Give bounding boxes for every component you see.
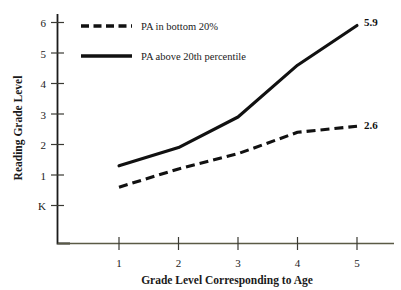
legend-label-pa-in-bottom-20pct: PA in bottom 20% — [141, 21, 218, 32]
x-axis-title: Grade Level Corresponding to Age — [141, 274, 313, 287]
y-tick-label: 1 — [41, 170, 47, 182]
y-tick-label: 5 — [41, 48, 47, 60]
x-tick-label: 4 — [295, 257, 301, 269]
x-tick-label: 1 — [116, 257, 122, 269]
x-tick-label: 2 — [176, 257, 182, 269]
legend-label-pa-above-20th-percentile: PA above 20th percentile — [141, 51, 246, 62]
x-tick-label: 3 — [235, 257, 241, 269]
series-line-pa-above-20th-percentile — [119, 26, 357, 166]
chart-container: 6 5 4 3 2 1 K 1 2 3 4 5 Grade Level Corr… — [0, 0, 401, 290]
y-tick-label: K — [38, 200, 46, 212]
y-tick-label: 3 — [41, 109, 47, 121]
chart-legend: PA in bottom 20% PA above 20th percentil… — [81, 21, 246, 62]
x-axis-tick-labels: 1 2 3 4 5 — [116, 257, 360, 269]
y-axis-line — [58, 14, 71, 244]
data-label-solid-end: 5.9 — [364, 16, 378, 28]
line-chart: 6 5 4 3 2 1 K 1 2 3 4 5 Grade Level Corr… — [0, 0, 401, 290]
data-label-dashed-end: 2.6 — [364, 119, 378, 131]
y-tick-label: 4 — [41, 78, 47, 90]
y-tick-label: 2 — [41, 139, 47, 151]
y-tick-label: 6 — [41, 17, 47, 29]
x-tick-label: 5 — [354, 257, 360, 269]
y-axis-title: Reading Grade Level — [12, 76, 25, 181]
series-line-pa-in-bottom-20pct — [119, 126, 357, 187]
y-axis-tick-labels: 6 5 4 3 2 1 K — [38, 17, 46, 212]
